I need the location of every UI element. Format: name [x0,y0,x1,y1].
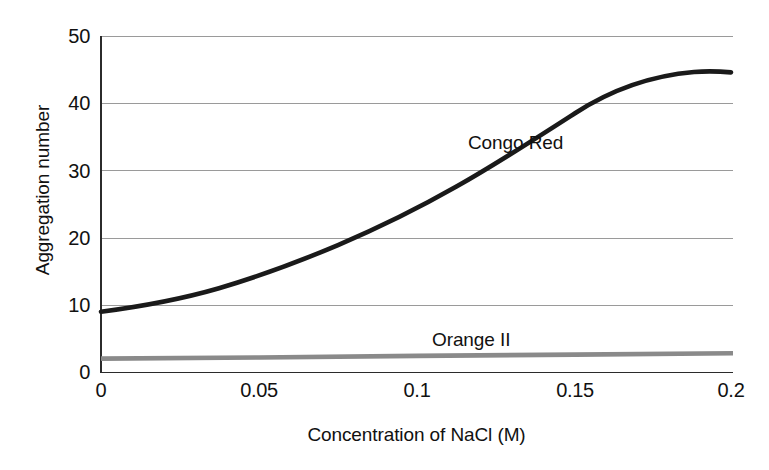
x-tick-015: 0.15 [530,380,620,400]
x-tick-02: 0.2 [686,380,769,400]
series-label-congo-red: Congo Red [468,133,563,152]
x-tick-005: 0.05 [214,380,304,400]
series-label-orange-ii: Orange II [432,330,510,349]
gridlines [101,37,734,306]
series-line-orange-ii [101,353,733,358]
x-axis-title: Concentration of NaCl (M) [100,424,733,446]
y-axis-title: Aggregation number [30,20,56,360]
series-line-congo-red [101,71,731,311]
chart-figure: 50 40 30 20 10 0 0 0.05 0.1 0.15 0.2 Agg… [0,0,769,470]
y-tick-0: 0 [48,362,90,382]
x-tick-01: 0.1 [372,380,462,400]
x-tick-0: 0 [56,380,146,400]
